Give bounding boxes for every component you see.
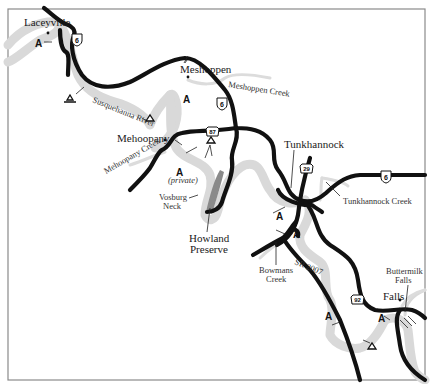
svg-text:92: 92 bbox=[354, 297, 361, 303]
label-preserve: Preserve bbox=[190, 243, 228, 255]
access-icon: A bbox=[35, 38, 42, 49]
access-icon: A bbox=[276, 211, 283, 222]
label-tunkhannock-creek: Tunkhannock Creek bbox=[343, 196, 413, 206]
river-map: A A A A A A A 6 6 6 87 29 92 Laceyville … bbox=[0, 0, 433, 384]
svg-text:6: 6 bbox=[75, 37, 79, 44]
svg-text:6: 6 bbox=[220, 101, 224, 108]
label-buttermilk-falls: Falls bbox=[395, 275, 412, 285]
label-private: (private) bbox=[168, 175, 198, 185]
access-icon: A bbox=[378, 313, 385, 324]
label-falls: Falls bbox=[383, 290, 404, 302]
label-tunkhannock: Tunkhannock bbox=[284, 138, 345, 150]
shield-us6-3: 6 bbox=[381, 171, 391, 183]
shield-pa29: 29 bbox=[300, 164, 313, 173]
shield-pa87: 87 bbox=[206, 127, 219, 136]
shield-us6-2: 6 bbox=[217, 98, 227, 110]
label-neck: Neck bbox=[163, 201, 182, 211]
meshoppen-dot bbox=[187, 76, 190, 79]
svg-text:6: 6 bbox=[384, 174, 388, 181]
access-icon: A bbox=[325, 311, 332, 322]
svg-text:29: 29 bbox=[303, 166, 310, 172]
laceyville-dot bbox=[47, 32, 50, 35]
shield-us6-1: 6 bbox=[72, 34, 82, 46]
shield-pa92: 92 bbox=[351, 295, 364, 304]
label-meshoppen: Meshoppen bbox=[180, 63, 232, 75]
label-bowmans-creek: Creek bbox=[266, 274, 287, 284]
access-icon: A bbox=[183, 94, 190, 105]
label-laceyville: Laceyville bbox=[24, 16, 71, 28]
access-icon: A bbox=[293, 229, 300, 240]
svg-text:87: 87 bbox=[209, 129, 216, 135]
